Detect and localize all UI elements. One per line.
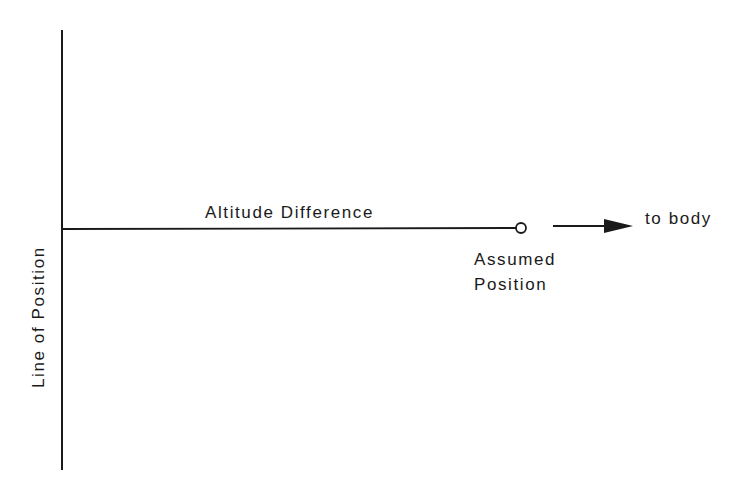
line-of-position-diagram: Line of Position Altitude Difference Ass…: [0, 0, 752, 498]
assumed-position-label-line2: Position: [474, 275, 547, 294]
diagram-canvas: Line of Position Altitude Difference Ass…: [0, 0, 752, 498]
altitude-difference-line: [62, 228, 516, 229]
altitude-difference-label: Altitude Difference: [205, 203, 374, 222]
to-body-label: to body: [645, 209, 712, 228]
line-of-position-label: Line of Position: [29, 246, 48, 388]
assumed-position-label-line1: Assumed: [474, 250, 556, 269]
assumed-position-marker: [516, 223, 526, 233]
arrow-to-body-icon: [553, 219, 633, 233]
